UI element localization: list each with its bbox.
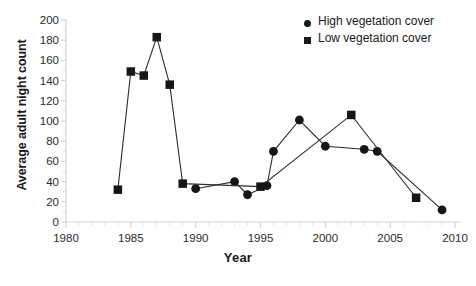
y-axis-tick-label: 200 [23,14,59,26]
x-axis-title: Year [0,250,476,265]
y-axis-tick-label: 40 [23,176,59,188]
x-axis-tick-label: 1980 [44,232,88,244]
y-axis-tick-label: 120 [23,95,59,107]
y-axis-tick-label: 100 [23,115,59,127]
x-axis-tick-label: 1995 [239,232,283,244]
x-axis-tick-label: 1990 [174,232,218,244]
y-axis-tick-label: 60 [23,155,59,167]
x-axis-tick-label: 2000 [303,232,347,244]
x-axis-tick-label: 2005 [368,232,412,244]
chart-legend: High vegetation cover Low vegetation cov… [304,14,472,47]
legend-item-high-vegetation-cover: High vegetation cover [304,14,472,29]
square-marker-icon [304,31,318,44]
legend-label: High vegetation cover [318,14,434,29]
circle-marker-icon [304,14,318,27]
legend-label: Low vegetation cover [318,31,431,46]
legend-item-low-vegetation-cover: Low vegetation cover [304,31,472,46]
y-axis-tick-label: 20 [23,196,59,208]
x-axis-tick-label: 1985 [109,232,153,244]
chart-figure: Average adult night count Year High vege… [0,0,476,286]
x-axis-tick-label: 2010 [433,232,476,244]
y-axis-tick-label: 140 [23,75,59,87]
y-axis-tick-label: 160 [23,54,59,66]
y-axis-tick-label: 180 [23,34,59,46]
y-axis-tick-label: 80 [23,135,59,147]
y-axis-tick-label: 0 [23,216,59,228]
